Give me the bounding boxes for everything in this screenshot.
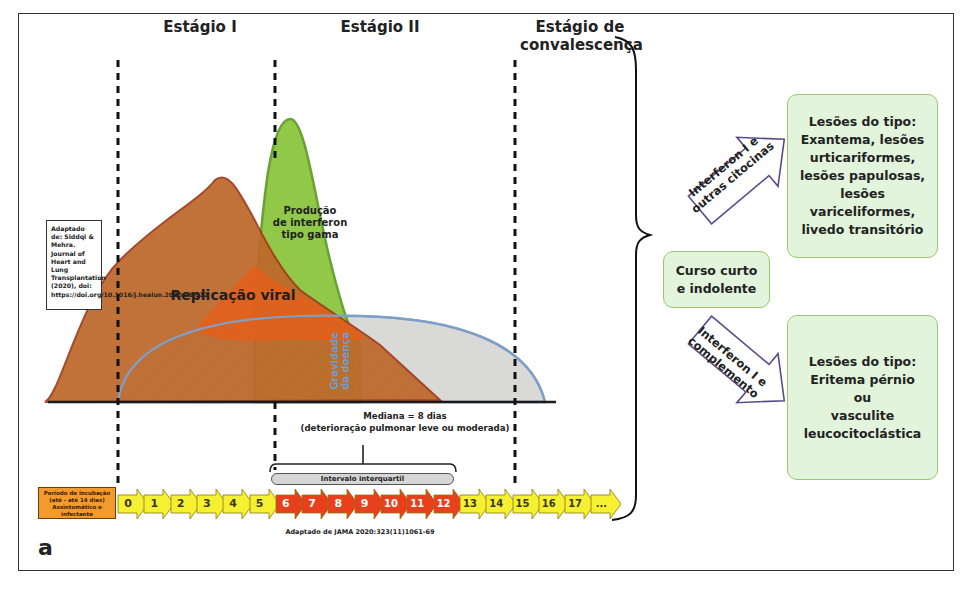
interferon-gamma-label: Produção de interferon tipo gama bbox=[270, 205, 350, 241]
panel-label: a bbox=[38, 535, 53, 560]
timeline-source: Adaptado de JAMA 2020:323(11)1061-69 bbox=[260, 528, 460, 536]
lesions-type-2-box: Lesões do tipo: Eritema pérnio ou vascul… bbox=[787, 315, 938, 480]
timeline-day-label: 15 bbox=[514, 495, 532, 513]
lesions-type-1-box: Lesões do tipo: Exantema, lesões urticar… bbox=[787, 94, 938, 258]
timeline-day-more: ... bbox=[590, 489, 620, 519]
lesions-type-2-text: Lesões do tipo: Eritema pérnio ou vascul… bbox=[804, 353, 922, 443]
short-course-box: Curso curto e indolente bbox=[663, 251, 770, 308]
timeline-day-label: 5 bbox=[251, 495, 269, 513]
timeline-day-label: 16 bbox=[540, 495, 558, 513]
timeline-day-label: 3 bbox=[198, 495, 216, 513]
timeline-day-label: 8 bbox=[329, 495, 347, 513]
timeline-day-label: 17 bbox=[566, 495, 584, 513]
stage-1-title: Estágio I bbox=[140, 18, 260, 36]
timeline-day-label: 9 bbox=[356, 495, 374, 513]
viral-replication-label: Replicação viral bbox=[168, 287, 298, 303]
timeline-day-label: 11 bbox=[408, 495, 426, 513]
incubation-period-box: Período de incubação (até - até 14 dias)… bbox=[38, 487, 116, 519]
timeline-day-label: 6 bbox=[277, 495, 295, 513]
disease-severity-label: Gravidade da doença bbox=[329, 321, 351, 401]
curly-brace bbox=[612, 37, 650, 520]
short-course-text: Curso curto e indolente bbox=[676, 262, 758, 298]
reference-citation-box: Adaptado de: Siddqi & Mehra. Journal of … bbox=[46, 220, 102, 310]
timeline-day-label: 10 bbox=[382, 495, 400, 513]
median-note: Mediana = 8 dias (deterioração pulmonar … bbox=[300, 410, 510, 434]
timeline-day-label: ... bbox=[592, 495, 610, 513]
iqr-bar: Intervalo interquartil bbox=[271, 473, 454, 485]
timeline-day-label: 13 bbox=[461, 495, 479, 513]
timeline-day-label: 1 bbox=[145, 495, 163, 513]
timeline-day-label: 7 bbox=[303, 495, 321, 513]
stage-2-title: Estágio II bbox=[320, 18, 440, 36]
stage-convalescence-title: Estágio de convalescença bbox=[520, 18, 640, 54]
timeline-day-label: 12 bbox=[435, 495, 453, 513]
timeline-day-label: 14 bbox=[487, 495, 505, 513]
iqr-bracket bbox=[270, 464, 456, 472]
lesions-type-1-text: Lesões do tipo: Exantema, lesões urticar… bbox=[800, 113, 925, 239]
timeline-day-label: 0 bbox=[119, 495, 137, 513]
timeline-day-label: 2 bbox=[172, 495, 190, 513]
timeline-day-label: 4 bbox=[224, 495, 242, 513]
